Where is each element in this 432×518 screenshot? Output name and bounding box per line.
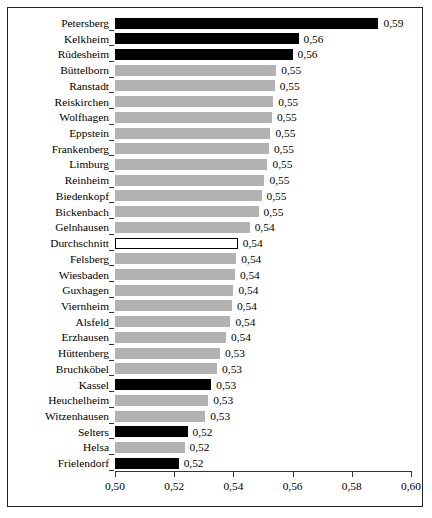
bar-row: Rüdesheim0,56: [8, 46, 422, 62]
category-label: Wolfhagen: [59, 109, 109, 125]
category-label: Eppstein: [69, 125, 109, 141]
bar: [115, 411, 205, 422]
bar-row: Kassel0,53: [8, 377, 422, 393]
bar-value-label: 0,54: [231, 329, 251, 345]
bar-value-label: 0,55: [264, 204, 284, 220]
bar-row: Alsfeld0,54: [8, 314, 422, 330]
bar-value-label: 0,55: [267, 188, 287, 204]
bar-row: Bruchköbel0,53: [8, 361, 422, 377]
bar: [115, 143, 269, 154]
x-axis-tick-label: 0,50: [90, 480, 140, 492]
bar-value-label: 0,54: [237, 298, 257, 314]
x-axis-tick: [352, 471, 353, 477]
bar-value-label: 0,54: [238, 282, 258, 298]
y-axis-tick: [109, 470, 114, 471]
bar-value-label: 0,54: [240, 267, 260, 283]
bar-value-label: 0,55: [281, 62, 301, 78]
bar: [115, 49, 293, 60]
bar-value-label: 0,55: [277, 109, 297, 125]
category-label: Frankenberg: [52, 141, 109, 157]
bar-row: Eppstein0,55: [8, 125, 422, 141]
category-label: Helsa: [83, 439, 109, 455]
bar: [115, 269, 235, 280]
category-label: Selters: [78, 424, 109, 440]
bar: [115, 80, 275, 91]
category-label: Frielendorf: [58, 455, 109, 471]
category-label: Reiskirchen: [55, 94, 109, 110]
bar-value-label: 0,56: [304, 31, 324, 47]
bar: [115, 316, 230, 327]
x-axis-tick-label: 0,56: [268, 480, 318, 492]
bar-value-label: 0,53: [216, 377, 236, 393]
category-label: Viernheim: [61, 298, 109, 314]
bar-row: Durchschnitt0,54: [8, 235, 422, 251]
bar-row: Helsa0,52: [8, 439, 422, 455]
bar-value-label: 0,52: [193, 424, 213, 440]
category-label: Alsfeld: [75, 314, 109, 330]
category-label: Guxhagen: [62, 282, 109, 298]
x-axis-line: [115, 471, 411, 472]
bar-row: Erzhausen0,54: [8, 329, 422, 345]
bar-row: Petersberg0,59: [8, 15, 422, 31]
bar: [115, 348, 220, 359]
category-label: Bickenbach: [55, 204, 109, 220]
bar-row: Witzenhausen0,53: [8, 408, 422, 424]
category-label: Witzenhausen: [45, 408, 109, 424]
bar-value-label: 0,53: [213, 392, 233, 408]
bar-row: Wolfhagen0,55: [8, 109, 422, 125]
bar: [115, 458, 179, 469]
bar-row: Limburg0,55: [8, 156, 422, 172]
category-label: Erzhausen: [62, 329, 109, 345]
bar-value-label: 0,52: [184, 455, 204, 471]
bar-value-label: 0,53: [210, 408, 230, 424]
bar-row: Büttelborn0,55: [8, 62, 422, 78]
bar-value-label: 0,53: [225, 345, 245, 361]
x-axis-tick: [115, 471, 116, 477]
x-axis-tick: [293, 471, 294, 477]
bar: [115, 33, 299, 44]
category-label: Heuchelheim: [48, 392, 109, 408]
bar-value-label: 0,53: [222, 361, 242, 377]
bar-value-label: 0,54: [241, 251, 261, 267]
x-axis-tick: [233, 471, 234, 477]
bar-value-label: 0,55: [280, 78, 300, 94]
x-axis-tick: [411, 471, 412, 477]
bar-row: Gelnhausen0,54: [8, 219, 422, 235]
bar-row: Felsberg0,54: [8, 251, 422, 267]
bar: [115, 300, 232, 311]
category-label: Bruchköbel: [56, 361, 109, 377]
bar-value-label: 0,54: [255, 219, 275, 235]
category-label: Kassel: [79, 377, 109, 393]
category-label: Biedenkopf: [56, 188, 109, 204]
bar-value-label: 0,54: [235, 314, 255, 330]
category-label: Gelnhausen: [55, 219, 109, 235]
bar-row: Guxhagen0,54: [8, 282, 422, 298]
category-label: Petersberg: [61, 15, 109, 31]
bar: [115, 112, 272, 123]
bar: [115, 442, 185, 453]
bar-row: Frankenberg0,55: [8, 141, 422, 157]
bar-row: Reiskirchen0,55: [8, 94, 422, 110]
category-label: Felsberg: [70, 251, 109, 267]
bar: [115, 379, 211, 390]
bar-row: Biedenkopf0,55: [8, 188, 422, 204]
category-label: Durchschnitt: [50, 235, 109, 251]
bar: [115, 253, 236, 264]
bar-row: Ranstadt0,55: [8, 78, 422, 94]
bar: [115, 206, 259, 217]
category-label: Limburg: [69, 156, 109, 172]
bar: [115, 128, 270, 139]
bar-value-label: 0,55: [275, 125, 295, 141]
x-axis-tick: [174, 471, 175, 477]
bar-chart-plot: Petersberg0,59Kelkheim0,56Rüdesheim0,56B…: [8, 8, 422, 506]
bar-value-label: 0,54: [243, 235, 263, 251]
bar-value-label: 0,55: [278, 94, 298, 110]
bar-row: Frielendorf0,52: [8, 455, 422, 471]
bar-value-label: 0,55: [272, 156, 292, 172]
bar: [115, 159, 267, 170]
bar-row: Hüttenberg0,53: [8, 345, 422, 361]
category-label: Kelkheim: [64, 31, 109, 47]
bar: [115, 395, 208, 406]
bar-value-label: 0,55: [274, 141, 294, 157]
bar-value-label: 0,59: [383, 15, 403, 31]
